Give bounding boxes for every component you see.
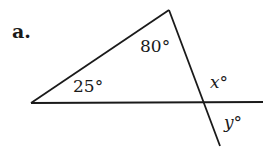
part-label: a. bbox=[12, 20, 31, 42]
angle-x-label: x° bbox=[210, 72, 228, 92]
angle-left-label: 25° bbox=[73, 76, 103, 96]
angle-y-label: y° bbox=[223, 112, 242, 132]
base-line bbox=[31, 102, 263, 103]
angle-top-label: 80° bbox=[140, 36, 170, 56]
triangle-diagram: a. 80° 25° x° y° bbox=[0, 0, 279, 157]
